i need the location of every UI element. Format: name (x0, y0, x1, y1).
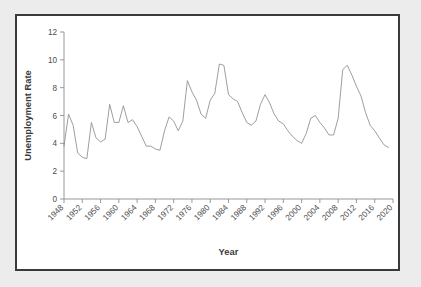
axes-group (60, 32, 393, 203)
x-tick-label: 1964 (119, 203, 139, 223)
x-tick-label: 1996 (266, 203, 286, 223)
x-tick-label: 1960 (101, 203, 121, 223)
x-tick-label: 1956 (83, 203, 103, 223)
x-tick-label: 1948 (46, 203, 66, 223)
x-tick-label: 1984 (211, 203, 231, 223)
y-tick-label: 4 (52, 139, 57, 148)
x-tick-label: 2004 (302, 203, 322, 223)
x-tick-label: 1952 (64, 203, 84, 223)
x-tick-label: 2020 (375, 203, 395, 223)
x-tick-label: 1980 (192, 203, 212, 223)
chart-plot-area: 0246810121948195219561960196419681972197… (17, 16, 398, 269)
x-tick-label: 1988 (229, 203, 249, 223)
x-tick-label: 1972 (156, 203, 176, 223)
y-tick-label: 12 (48, 28, 58, 37)
y-tick-label: 10 (48, 56, 58, 65)
tick-labels-group: 0246810121948195219561960196419681972197… (46, 28, 395, 222)
figure-frame: 0246810121948195219561960196419681972197… (15, 14, 400, 271)
unemployment-line-chart: 0246810121948195219561960196419681972197… (17, 16, 398, 269)
x-tick-label: 1992 (247, 203, 267, 223)
y-tick-label: 0 (52, 195, 57, 204)
x-tick-label: 2016 (357, 203, 377, 223)
x-tick-label: 2000 (284, 203, 304, 223)
x-tick-label: 2012 (339, 203, 359, 223)
y-tick-label: 6 (52, 112, 57, 121)
data-series-group (64, 64, 388, 159)
x-tick-label: 1968 (138, 203, 158, 223)
data-line-unemployment-rate (64, 64, 388, 159)
x-axis-title: Year (219, 246, 239, 257)
x-tick-label: 1976 (174, 203, 194, 223)
y-tick-label: 8 (52, 84, 57, 93)
y-tick-label: 2 (52, 167, 57, 176)
x-tick-label: 2008 (320, 203, 340, 223)
y-axis-title: Unemployment Rate (22, 70, 33, 161)
